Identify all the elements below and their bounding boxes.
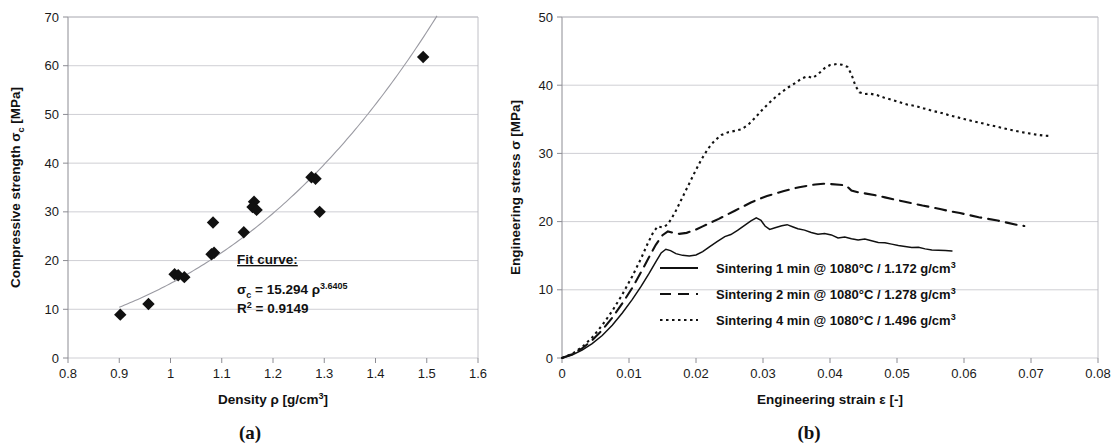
svg-text:1.6: 1.6	[469, 366, 487, 381]
svg-text:20: 20	[45, 253, 59, 268]
svg-text:1.5: 1.5	[418, 366, 436, 381]
chart-a-x-ticklabels: 0.80.911.11.21.31.41.51.6	[59, 358, 487, 381]
svg-text:0: 0	[558, 366, 565, 381]
svg-text:50: 50	[539, 10, 553, 25]
figure-container: 0102030405060700.80.911.11.21.31.41.51.6…	[0, 0, 1118, 446]
svg-text:0.8: 0.8	[59, 366, 77, 381]
svg-text:0.03: 0.03	[750, 366, 775, 381]
chart-a-x-axis-title: Density ρ [g/cm3]	[218, 391, 328, 407]
panel-a: 0102030405060700.80.911.11.21.31.41.51.6…	[0, 0, 500, 446]
fit-curve-heading: Fit curve:	[237, 252, 298, 267]
chart-a-data-point	[114, 308, 126, 320]
legend-label-2: Sintering 2 min @ 1080°C / 1.278 g/cm3	[716, 286, 956, 302]
svg-text:20: 20	[539, 214, 553, 229]
chart-b-y-ticklabels: 01020304050	[539, 10, 562, 366]
chart-a-data-point	[207, 216, 219, 228]
svg-text:70: 70	[45, 10, 59, 25]
svg-text:30: 30	[45, 204, 59, 219]
fit-curve-r-squared: R2 = 0.9149	[237, 300, 308, 316]
svg-text:0.01: 0.01	[616, 366, 641, 381]
chart-a-y-ticklabels: 010203040506070	[45, 10, 68, 366]
panel-b: 0102030405000.010.020.030.040.050.060.07…	[500, 0, 1118, 446]
panel-a-caption: (a)	[0, 422, 500, 444]
svg-text:1.3: 1.3	[315, 366, 333, 381]
svg-text:40: 40	[45, 156, 59, 171]
chart-a-data-point	[417, 51, 429, 63]
panel-b-caption: (b)	[500, 422, 1118, 444]
svg-text:10: 10	[45, 302, 59, 317]
svg-text:0.07: 0.07	[1018, 366, 1043, 381]
svg-text:60: 60	[45, 58, 59, 73]
chart-a-y-axis-title: Compressive strength σc [MPa]	[8, 87, 26, 288]
svg-text:0.06: 0.06	[951, 366, 976, 381]
svg-text:0.04: 0.04	[817, 366, 842, 381]
chart-b-legend: Sintering 1 min @ 1080°C / 1.172 g/cm3Si…	[660, 260, 956, 328]
svg-text:0.08: 0.08	[1085, 366, 1110, 381]
chart-a-data-point	[313, 206, 325, 218]
chart-b-y-axis-title: Engineering stress σ [MPa]	[508, 100, 523, 275]
svg-text:1.2: 1.2	[264, 366, 282, 381]
chart-a-fit-annotation: Fit curve:σc = 15.294 ρ3.6405R2 = 0.9149	[237, 252, 348, 316]
chart-b-stress-strain: 0102030405000.010.020.030.040.050.060.07…	[500, 0, 1118, 410]
chart-b-x-ticklabels: 00.010.020.030.040.050.060.070.08	[558, 358, 1110, 381]
svg-text:10: 10	[539, 282, 553, 297]
svg-text:0.9: 0.9	[110, 366, 128, 381]
legend-label-3: Sintering 4 min @ 1080°C / 1.496 g/cm3	[716, 312, 956, 328]
svg-text:0.05: 0.05	[884, 366, 909, 381]
fit-curve-equation: σc = 15.294 ρ3.6405	[237, 281, 348, 300]
svg-text:1.4: 1.4	[366, 366, 384, 381]
svg-text:0: 0	[52, 351, 59, 366]
legend-label-1: Sintering 1 min @ 1080°C / 1.172 g/cm3	[716, 260, 956, 276]
svg-text:0: 0	[546, 351, 553, 366]
chart-a-data-point	[142, 298, 154, 310]
svg-text:1: 1	[167, 366, 174, 381]
svg-text:40: 40	[539, 78, 553, 93]
chart-a-data-points	[114, 51, 429, 321]
svg-text:0.02: 0.02	[683, 366, 708, 381]
svg-text:50: 50	[45, 107, 59, 122]
chart-a-data-point	[238, 226, 250, 238]
chart-b-gridlines	[562, 17, 1098, 358]
chart-a-scatter: 0102030405060700.80.911.11.21.31.41.51.6…	[0, 0, 500, 410]
chart-b-x-axis-title: Engineering strain ε [-]	[757, 392, 903, 407]
svg-text:1.1: 1.1	[213, 366, 231, 381]
svg-text:30: 30	[539, 146, 553, 161]
